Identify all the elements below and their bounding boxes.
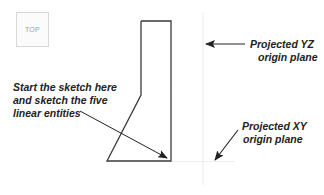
callout-line: Projected YZ (250, 38, 318, 51)
callout-line: linear entities (13, 107, 117, 120)
callout-line: Start the sketch here (13, 81, 117, 94)
callout-line: Projected XY (242, 120, 307, 133)
yz-plane-callout: Projected YZ origin plane (250, 38, 318, 64)
xy-plane-arrow (215, 130, 238, 160)
callout-line: origin plane (242, 133, 307, 146)
xy-plane-callout: Projected XY origin plane (242, 120, 307, 146)
start-sketch-callout: Start the sketch here and sketch the fiv… (13, 81, 117, 120)
callout-line: and sketch the five (13, 94, 117, 107)
callout-line: origin plane (250, 51, 318, 64)
